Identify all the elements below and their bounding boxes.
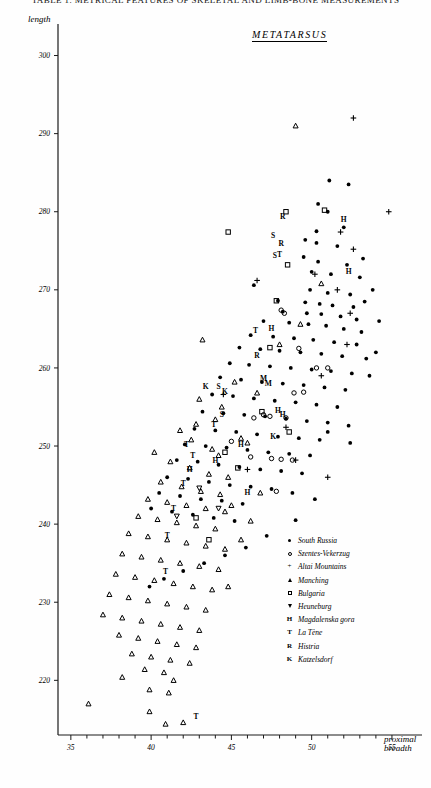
- point-triangle: [218, 492, 223, 497]
- x-tick-label: 55: [388, 743, 396, 752]
- point-dot: [350, 371, 354, 375]
- point-triangle: [222, 547, 227, 552]
- point-triangle: [129, 651, 134, 656]
- point-dot: [291, 491, 295, 495]
- point-dot: [374, 350, 378, 354]
- point-triangle: [184, 604, 189, 609]
- point-dot: [348, 293, 352, 297]
- point-dot: [315, 403, 319, 407]
- point-dot: [289, 366, 293, 370]
- point-triangle: [155, 639, 160, 644]
- point-triangle: [210, 587, 215, 592]
- point-triangle: [165, 500, 170, 505]
- point-circle: [248, 455, 252, 459]
- point-dot: [371, 288, 375, 292]
- point-circle: [269, 456, 273, 460]
- point-plus: [335, 287, 341, 293]
- y-tick-label: 250: [39, 442, 51, 451]
- point-triangle: [222, 509, 227, 514]
- point-plus: [325, 474, 331, 480]
- point-plus: [283, 424, 289, 430]
- y-tick-label: 270: [39, 285, 51, 294]
- point-dot: [364, 357, 368, 361]
- point-dot: [162, 577, 166, 581]
- point-triangle: [86, 701, 91, 706]
- point-square: [287, 430, 291, 434]
- point-triangle: [187, 661, 192, 666]
- point-circle: [292, 391, 296, 395]
- point-plus: [351, 115, 357, 121]
- legend-marker-dot-icon: [283, 534, 296, 547]
- point-dot: [241, 502, 245, 506]
- point-dot: [347, 424, 351, 428]
- point-circle: [268, 414, 272, 418]
- point-square: [285, 263, 289, 267]
- point-triangle: [158, 621, 163, 626]
- point-dot: [210, 393, 214, 397]
- point-triangle: [158, 557, 163, 562]
- point-dot: [220, 499, 224, 503]
- legend-item-magdalenska-gora: HMagdalenska gora: [283, 613, 354, 626]
- point-dot: [368, 374, 372, 378]
- point-triangle: [126, 531, 131, 536]
- y-tick-label: 290: [39, 129, 51, 138]
- legend-marker-letter-icon: K: [283, 653, 296, 666]
- point-triangle: [203, 506, 208, 511]
- point-triangle: [174, 642, 179, 647]
- point-dot: [360, 330, 364, 334]
- y-tick-label: 240: [39, 520, 51, 529]
- point-plus: [245, 467, 251, 473]
- series-9: KKK: [203, 382, 276, 441]
- point-dot: [228, 361, 232, 365]
- series-2: [221, 115, 392, 480]
- point-dot: [302, 383, 306, 387]
- point-triangle: [142, 667, 147, 672]
- point-dot: [348, 441, 352, 445]
- x-tick-label: 35: [66, 743, 75, 752]
- point-dot: [305, 311, 309, 315]
- point-triangle: [147, 687, 152, 692]
- point-triangle: [206, 472, 211, 477]
- point-dot: [342, 327, 346, 331]
- point-triangle: [178, 625, 183, 630]
- point-triangle: [277, 342, 282, 347]
- point-dot: [326, 421, 330, 425]
- point-triangle: [298, 322, 303, 327]
- point-triangle: [226, 584, 231, 589]
- point-dot: [196, 460, 200, 464]
- point-triangle: [194, 422, 199, 427]
- point-dot: [316, 260, 320, 264]
- point-dot: [316, 202, 320, 206]
- point-dot: [307, 322, 311, 326]
- point-dot: [339, 314, 343, 318]
- point-triangle: [136, 514, 141, 519]
- point-triangle: [226, 475, 231, 480]
- point-triangle: [100, 612, 105, 617]
- point-square: [223, 450, 227, 454]
- point-triangle: [152, 450, 157, 455]
- point-triangle: [232, 379, 237, 384]
- point-triangle: [194, 523, 199, 528]
- point-dot: [377, 319, 381, 323]
- point-plus: [338, 229, 344, 235]
- point-letter-T: T: [163, 567, 168, 576]
- point-dot: [273, 399, 277, 403]
- point-letter-K: K: [203, 382, 209, 391]
- point-letter-R: R: [280, 212, 286, 221]
- point-triangle: [319, 281, 324, 286]
- point-dot: [352, 305, 356, 309]
- point-dot: [319, 352, 323, 356]
- legend-item-altai-mountains: +Altai Mountains: [283, 560, 354, 573]
- point-triangle: [165, 601, 170, 606]
- legend-item-histria: RHistria: [283, 640, 354, 653]
- legend-label: Bulgaria: [296, 589, 325, 598]
- point-dot: [294, 518, 298, 522]
- point-dot: [326, 291, 330, 295]
- point-circle: [301, 390, 305, 394]
- point-dot: [327, 179, 331, 183]
- legend-label: Heuneburg: [296, 602, 331, 611]
- point-dot: [247, 363, 251, 367]
- point-dot: [315, 241, 319, 245]
- point-dot: [255, 432, 259, 436]
- series-1: [229, 308, 330, 494]
